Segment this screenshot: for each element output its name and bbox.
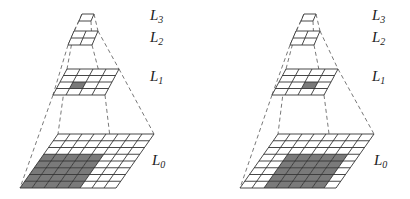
dashed-connector [98,31,119,69]
left-label-l1: L1 [149,68,163,86]
left-pyramid [20,14,154,188]
level-0-grid [240,134,374,188]
level-3-grid [301,14,316,21]
right-label-l1: L1 [371,68,385,86]
level-1-grid [53,69,119,95]
right-label-l2: L2 [371,29,385,47]
level-2-grid [68,31,98,45]
level-0-grid [20,134,154,188]
level-1-grid [272,69,338,95]
dashed-connector [94,14,98,31]
level-3-grid [79,14,94,21]
left-label-l2: L2 [149,29,163,47]
pyramid-diagram: L3 L2 L1 L0 L3 L2 L1 L0 [0,0,410,199]
right-label-l3: L3 [371,7,385,25]
right-label-l0: L0 [373,152,387,170]
left-label-l3: L3 [149,7,163,25]
level-2-grid [290,31,320,45]
dashed-connector [316,14,320,31]
dashed-connector [320,31,338,69]
dashed-connector [338,69,374,134]
right-pyramid [240,14,374,188]
dashed-connector [119,69,154,134]
left-label-l0: L0 [151,152,165,170]
